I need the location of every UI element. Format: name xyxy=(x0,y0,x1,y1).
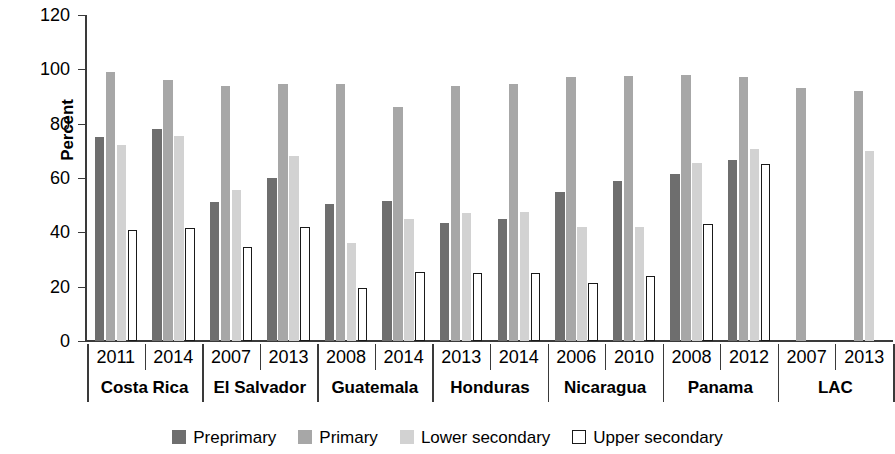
bar-upper xyxy=(703,224,713,341)
x-country-separator xyxy=(87,344,89,402)
bar-preprimary xyxy=(555,192,565,341)
x-year-label: 2007 xyxy=(202,343,260,371)
y-tick-label: 120 xyxy=(28,6,70,24)
y-tick-mark xyxy=(78,15,85,16)
bar-group xyxy=(317,15,375,341)
bar-upper xyxy=(185,228,195,341)
bar-primary xyxy=(278,84,288,341)
legend-swatch-primary xyxy=(298,430,312,444)
bar-upper xyxy=(358,288,368,341)
bar-preprimary xyxy=(728,160,738,341)
bar-group xyxy=(720,15,778,341)
x-year-separator xyxy=(720,344,721,370)
x-country-separator xyxy=(893,344,895,402)
bar-upper xyxy=(531,273,541,341)
bar-group xyxy=(835,15,893,341)
bar-upper xyxy=(415,272,425,341)
bar-primary xyxy=(854,91,864,341)
legend-label: Preprimary xyxy=(193,429,276,446)
bar-group xyxy=(145,15,203,341)
x-year-label: 2014 xyxy=(375,343,433,371)
y-tick-label: 100 xyxy=(28,60,70,78)
bar-primary xyxy=(393,107,403,341)
bar-preprimary xyxy=(95,137,105,341)
bar-preprimary xyxy=(498,219,508,341)
x-year-separator xyxy=(835,344,836,370)
bar-group xyxy=(663,15,721,341)
bar-lower xyxy=(750,149,760,341)
bar-lower xyxy=(692,163,702,341)
y-tick-mark xyxy=(78,124,85,125)
x-year-label: 2012 xyxy=(720,343,778,371)
x-year-label: 2014 xyxy=(490,343,548,371)
x-year-label: 2014 xyxy=(145,343,203,371)
bar-primary xyxy=(106,72,116,341)
bar-lower xyxy=(520,212,530,341)
bar-primary xyxy=(739,77,749,341)
chart-legend: PreprimaryPrimaryLower secondaryUpper se… xyxy=(0,424,895,450)
bar-upper xyxy=(473,273,483,341)
x-country-separator xyxy=(778,344,780,402)
bar-lower xyxy=(635,227,645,341)
bar-group xyxy=(778,15,836,341)
y-tick-mark xyxy=(78,178,85,179)
bar-lower xyxy=(117,145,127,341)
y-tick-label: 40 xyxy=(28,223,70,241)
legend-swatch-preprimary xyxy=(172,430,186,444)
bar-primary xyxy=(681,75,691,341)
bar-group xyxy=(605,15,663,341)
bar-lower xyxy=(865,151,875,341)
x-country-label: LAC xyxy=(778,374,893,402)
legend-label: Upper secondary xyxy=(593,429,722,446)
y-tick-label: 80 xyxy=(28,115,70,133)
bar-preprimary xyxy=(613,181,623,341)
legend-label: Lower secondary xyxy=(421,429,550,446)
bar-group xyxy=(375,15,433,341)
bar-preprimary xyxy=(440,223,450,341)
bar-upper xyxy=(588,283,598,341)
x-year-label: 2008 xyxy=(663,343,721,371)
bar-preprimary xyxy=(152,129,162,341)
bar-group xyxy=(202,15,260,341)
bar-chart: Percent 020406080100120 2011201420072013… xyxy=(0,0,895,454)
bar-upper xyxy=(300,227,310,341)
y-tick-label: 0 xyxy=(28,332,70,350)
x-country-label: Costa Rica xyxy=(87,374,202,402)
bar-preprimary xyxy=(382,201,392,341)
bar-preprimary xyxy=(325,204,335,341)
bar-group xyxy=(260,15,318,341)
bar-upper xyxy=(646,276,656,341)
bar-primary xyxy=(451,86,461,341)
legend-item[interactable]: Primary xyxy=(298,429,378,446)
bar-lower xyxy=(577,227,587,341)
x-year-separator xyxy=(490,344,491,370)
legend-item[interactable]: Upper secondary xyxy=(572,429,722,446)
legend-item[interactable]: Preprimary xyxy=(172,429,276,446)
x-country-separator xyxy=(202,344,204,402)
bar-lower xyxy=(232,190,242,341)
x-country-label: Guatemala xyxy=(317,374,432,402)
x-country-label: Panama xyxy=(663,374,778,402)
legend-swatch-upper xyxy=(572,430,586,444)
x-year-label: 2006 xyxy=(548,343,606,371)
bar-preprimary xyxy=(267,178,277,341)
x-year-label: 2013 xyxy=(835,343,893,371)
bar-group xyxy=(432,15,490,341)
legend-swatch-lower xyxy=(400,430,414,444)
bar-primary xyxy=(509,84,519,341)
x-axis-labels: 2011201420072013200820142013201420062010… xyxy=(85,342,893,404)
bar-lower xyxy=(289,156,299,341)
legend-label: Primary xyxy=(319,429,378,446)
x-country-label: El Salvador xyxy=(202,374,317,402)
bar-group xyxy=(548,15,606,341)
x-year-separator xyxy=(605,344,606,370)
bar-group xyxy=(490,15,548,341)
y-tick-mark xyxy=(78,287,85,288)
x-country-separator xyxy=(548,344,550,402)
y-tick-label: 60 xyxy=(28,169,70,187)
legend-item[interactable]: Lower secondary xyxy=(400,429,550,446)
bar-lower xyxy=(347,243,357,341)
bar-primary xyxy=(624,76,634,341)
bar-primary xyxy=(221,86,231,341)
y-tick-label: 20 xyxy=(28,278,70,296)
